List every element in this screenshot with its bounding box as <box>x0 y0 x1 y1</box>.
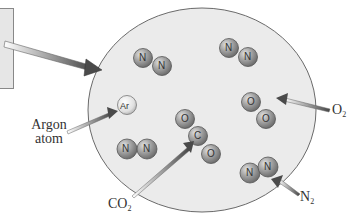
atom-letter: O <box>262 112 270 126</box>
source-arrow <box>4 41 102 76</box>
o2-label-main: O <box>332 102 342 117</box>
n2-label-main: N <box>300 189 310 204</box>
atom-letter: Ar <box>120 99 129 113</box>
atom-letter: N <box>122 142 129 156</box>
atom-letter: N <box>158 59 165 73</box>
n2-label: N2 <box>300 190 314 209</box>
atom-letter: N <box>246 166 253 180</box>
atom-letter: N <box>244 50 251 64</box>
n2-label-sub: 2 <box>310 197 314 206</box>
o2-label-sub: 2 <box>342 110 346 119</box>
air-composition-diagram: N N N N Ar O C O O O N N N N Argon atom … <box>0 0 363 219</box>
atom-letter: N <box>264 160 271 174</box>
atom-letter: O <box>247 95 255 109</box>
atom-letter: N <box>143 142 150 156</box>
o2-label: O2 <box>332 103 346 122</box>
co2-label: CO2 <box>108 197 131 216</box>
atom-letter: N <box>225 41 232 55</box>
atom-letter: O <box>207 147 215 161</box>
argon-label-line2: atom <box>31 132 67 146</box>
argon-label-line1: Argon <box>31 118 67 132</box>
co2-label-main: CO <box>108 196 127 211</box>
atom-letter: C <box>194 129 201 143</box>
co2-label-sub: 2 <box>127 204 131 213</box>
atom-letter: O <box>181 112 189 126</box>
argon-label: Argon atom <box>31 118 67 146</box>
diagram-canvas <box>0 0 363 219</box>
atom-letter: N <box>139 51 146 65</box>
